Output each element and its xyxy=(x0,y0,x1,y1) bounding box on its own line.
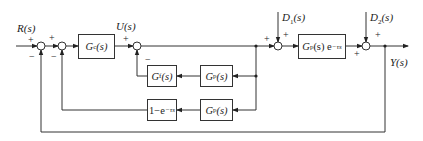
sign-sum5-plus: + xyxy=(354,49,360,59)
label-reference: R(s) xyxy=(17,23,35,34)
label-disturbance1: D1(s) xyxy=(282,12,305,26)
block-plant-with-delay: Gp(s) e−τs xyxy=(298,34,346,59)
sum-junction-4 xyxy=(274,42,282,50)
block-filter: Gf(s) xyxy=(147,65,177,87)
sign-sum5-d-plus: + xyxy=(375,30,381,40)
sign-sum4-d-plus: + xyxy=(283,30,289,40)
sign-sum2-plus: + xyxy=(49,33,55,43)
label-output: Y(s) xyxy=(390,57,408,68)
sign-sum1-minus: − xyxy=(29,52,35,62)
block-controller: Gc(s) xyxy=(78,34,115,59)
block-model-upper: Gp(s) xyxy=(200,65,233,87)
sign-sum3-plus: + xyxy=(123,34,129,44)
label-control: U(s) xyxy=(116,21,136,32)
sum-junction-5 xyxy=(362,42,370,50)
sum-junction-3 xyxy=(133,42,141,50)
sum-junction-2 xyxy=(58,42,66,50)
block-model-lower: Gp(s) xyxy=(200,99,233,121)
label-disturbance2: D2(s) xyxy=(370,12,393,26)
sign-sum1-plus: + xyxy=(28,35,34,45)
sign-sum4-plus: + xyxy=(264,34,270,44)
sign-sum2-minus: − xyxy=(51,52,57,62)
sign-sum3-minus: − xyxy=(145,55,151,65)
sum-junction-1 xyxy=(37,42,45,50)
block-delay-compensation: 1−e−τs xyxy=(147,99,177,121)
